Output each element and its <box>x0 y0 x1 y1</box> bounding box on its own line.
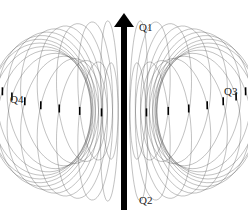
label-q2: Q2 <box>139 195 152 206</box>
arrow-head-icon <box>114 13 134 27</box>
label-q1: Q1 <box>139 22 152 33</box>
torus-figure <box>0 0 248 218</box>
label-q4: Q4 <box>10 94 23 105</box>
diagram-canvas: Q1 Q2 Q3 Q4 <box>0 0 248 218</box>
axis-arrow <box>114 13 134 210</box>
label-q3: Q3 <box>224 86 237 97</box>
